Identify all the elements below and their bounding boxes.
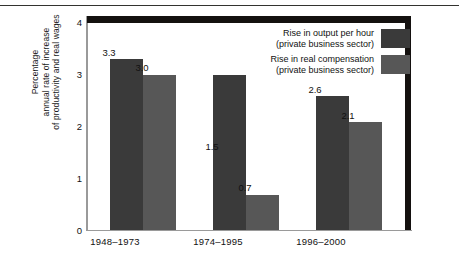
legend-label-output-per-hour: Rise in output per hour (private busines… <box>276 28 381 49</box>
bar-compensation-1996-2000[interactable] <box>349 122 382 231</box>
x-category-label-1996-2000: 1996–2000 <box>276 236 366 247</box>
legend-label-output-line-1: Rise in output per hour <box>276 28 374 39</box>
value-label-compensation-1974-1995: 0.7 <box>230 182 260 193</box>
x-axis-baseline <box>86 230 412 231</box>
plot-top-border-bar <box>86 16 411 23</box>
y-tick-label-2: 2 <box>66 121 82 132</box>
value-label-output-1996-2000: 2.6 <box>300 84 330 95</box>
legend-label-compensation-line-2: (private business sector) <box>270 65 374 76</box>
bar-compensation-1948-1973[interactable] <box>143 75 176 231</box>
legend-label-real-compensation: Rise in real compensation (private busin… <box>270 54 381 75</box>
legend-swatch-real-compensation <box>381 55 410 74</box>
legend-swatch-output-per-hour <box>381 29 410 48</box>
x-category-label-1974-1995: 1974–1995 <box>173 236 263 247</box>
legend-label-compensation-line-1: Rise in real compensation <box>270 54 374 65</box>
legend-item-real-compensation[interactable]: Rise in real compensation (private busin… <box>225 54 410 75</box>
legend-label-output-line-2: (private business sector) <box>276 39 374 50</box>
value-label-compensation-1996-2000: 2.1 <box>333 110 363 121</box>
bar-compensation-1974-1995[interactable] <box>246 195 279 231</box>
bar-output-1948-1973[interactable] <box>110 59 143 231</box>
bar-output-1974-1995[interactable] <box>213 75 246 231</box>
x-category-label-1948-1973: 1948–1973 <box>70 236 160 247</box>
y-axis-title: Percentage annual rate of increase of pr… <box>30 0 70 162</box>
chart-legend: Rise in output per hour (private busines… <box>225 28 410 80</box>
legend-item-output-per-hour[interactable]: Rise in output per hour (private busines… <box>225 28 410 49</box>
y-axis-title-line-1: Percentage <box>30 0 41 162</box>
y-tick-label-1: 1 <box>66 173 82 184</box>
y-axis-spine <box>86 16 87 231</box>
value-label-output-1948-1973: 3.3 <box>94 47 124 58</box>
plot-frame: Rise in output per hour (private busines… <box>86 16 411 231</box>
y-tick-label-3: 3 <box>66 69 82 80</box>
bar-chart-figure: Percentage annual rate of increase of pr… <box>0 0 459 273</box>
y-tick-label-4: 4 <box>66 17 82 28</box>
value-label-compensation-1948-1973: 3.0 <box>127 62 157 73</box>
y-tick-label-0: 0 <box>66 225 82 236</box>
y-axis-title-line-2: annual rate of increase <box>41 0 52 162</box>
value-label-output-1974-1995: 1.5 <box>197 141 227 152</box>
y-axis-title-line-3: of productivity and real wages <box>51 0 62 162</box>
